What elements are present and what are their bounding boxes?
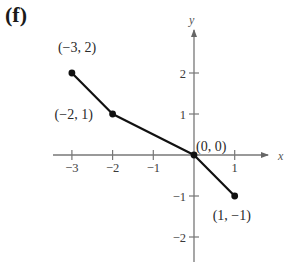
x-tick-label: −2 bbox=[106, 161, 119, 175]
y-axis-label: y bbox=[188, 13, 195, 27]
annotations: (−3, 2)(−2, 1)(0, 0)(1, −1) bbox=[55, 40, 252, 224]
point-label: (0, 0) bbox=[196, 139, 227, 155]
x-tick-label: −1 bbox=[147, 161, 160, 175]
point-label: (−3, 2) bbox=[58, 40, 97, 56]
data-series bbox=[69, 70, 239, 200]
series-line bbox=[72, 73, 235, 196]
point-label: (−2, 1) bbox=[55, 107, 94, 123]
plot-area: xy −3−2−1121−1−2 (−3, 2)(−2, 1)(0, 0)(1,… bbox=[0, 0, 295, 275]
x-axis-label: x bbox=[277, 149, 284, 163]
y-tick-label: 1 bbox=[180, 108, 186, 122]
y-tick-label: −2 bbox=[173, 231, 186, 245]
data-point-marker bbox=[231, 193, 238, 200]
x-tick-label: 1 bbox=[232, 161, 238, 175]
data-point-marker bbox=[69, 70, 76, 77]
y-tick-label: 2 bbox=[180, 67, 186, 81]
y-tick-label: −1 bbox=[173, 190, 186, 204]
x-tick-label: −3 bbox=[65, 161, 78, 175]
point-label: (1, −1) bbox=[213, 208, 252, 224]
data-point-marker bbox=[109, 111, 116, 118]
